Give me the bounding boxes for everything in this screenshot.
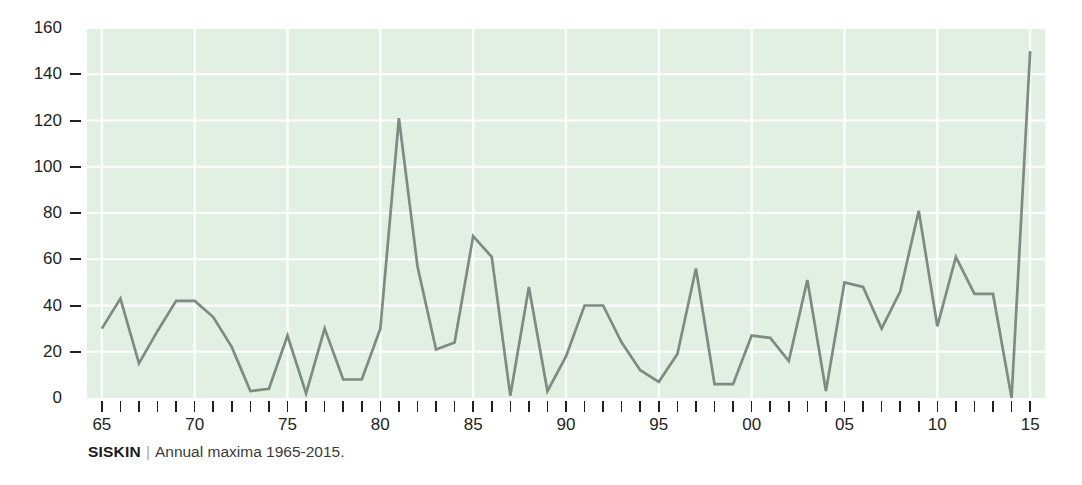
x-tick-mark [602, 401, 604, 412]
x-tick-mark [435, 401, 437, 412]
y-axis: 020406080100120140160 [0, 0, 87, 420]
x-tick-mark [825, 401, 827, 412]
caption-description: Annual maxima 1965-2015. [155, 443, 345, 460]
y-tick: 60 [43, 249, 87, 269]
x-tick-mark [417, 401, 419, 412]
x-tick-mark [807, 401, 809, 412]
chart-caption: SISKIN|Annual maxima 1965-2015. [88, 443, 345, 461]
x-tick-label: 10 [928, 415, 947, 435]
x-tick-mark [677, 401, 679, 412]
x-tick-mark [268, 401, 270, 412]
x-tick-mark [324, 401, 326, 412]
x-tick-mark [472, 401, 474, 412]
y-tick-label: 80 [43, 203, 62, 223]
x-tick-mark [380, 401, 382, 412]
x-tick-mark [361, 401, 363, 412]
y-tick-label: 100 [34, 157, 62, 177]
x-tick-mark [899, 401, 901, 412]
x-tick-mark [194, 401, 196, 412]
x-tick-mark [1029, 401, 1031, 412]
caption-separator: | [141, 443, 155, 460]
x-axis: 6570758085909500051015 [87, 398, 1045, 438]
x-tick-mark [639, 401, 641, 412]
y-tick: 0 [53, 388, 87, 408]
x-tick-mark [695, 401, 697, 412]
x-tick-mark [157, 401, 159, 412]
y-tick-mark [70, 397, 81, 399]
x-tick-mark [714, 401, 716, 412]
x-tick-mark [547, 401, 549, 412]
x-tick-mark [788, 401, 790, 412]
y-tick-mark [70, 73, 81, 75]
x-tick-mark [844, 401, 846, 412]
x-tick-mark [658, 401, 660, 412]
x-tick-mark [120, 401, 122, 412]
y-tick-mark [70, 212, 81, 214]
x-tick-mark [918, 401, 920, 412]
plot-area [87, 28, 1045, 398]
y-tick-label: 120 [34, 111, 62, 131]
x-tick-label: 15 [1021, 415, 1040, 435]
x-tick-label: 05 [835, 415, 854, 435]
x-tick-mark [175, 401, 177, 412]
x-tick-mark [342, 401, 344, 412]
y-tick-mark [70, 27, 81, 29]
chart-svg [87, 28, 1045, 398]
y-tick: 120 [34, 111, 87, 131]
y-tick-mark [70, 120, 81, 122]
x-tick-label: 75 [278, 415, 297, 435]
y-tick-label: 20 [43, 342, 62, 362]
y-tick-label: 160 [34, 18, 62, 38]
y-tick-label: 140 [34, 64, 62, 84]
x-tick-label: 80 [371, 415, 390, 435]
x-tick-mark [862, 401, 864, 412]
x-tick-mark [732, 401, 734, 412]
x-tick-label: 65 [92, 415, 111, 435]
x-tick-mark [881, 401, 883, 412]
y-tick: 140 [34, 64, 87, 84]
x-tick-label: 90 [557, 415, 576, 435]
y-tick: 160 [34, 18, 87, 38]
y-tick: 100 [34, 157, 87, 177]
y-tick: 20 [43, 342, 87, 362]
gridlines [87, 28, 1045, 398]
y-tick-mark [70, 258, 81, 260]
x-tick-label: 70 [185, 415, 204, 435]
x-tick-mark [398, 401, 400, 412]
x-tick-mark [528, 401, 530, 412]
x-tick-mark [250, 401, 252, 412]
x-tick-mark [231, 401, 233, 412]
x-tick-mark [305, 401, 307, 412]
y-tick-mark [70, 351, 81, 353]
x-tick-mark [955, 401, 957, 412]
x-tick-mark [937, 401, 939, 412]
x-tick-mark [974, 401, 976, 412]
chart-figure: 020406080100120140160 657075808590950005… [0, 0, 1082, 485]
y-tick-label: 60 [43, 249, 62, 269]
x-tick-mark [510, 401, 512, 412]
x-tick-mark [212, 401, 214, 412]
x-tick-mark [138, 401, 140, 412]
x-tick-mark [992, 401, 994, 412]
x-tick-mark [565, 401, 567, 412]
x-tick-mark [751, 401, 753, 412]
y-tick-mark [70, 305, 81, 307]
x-tick-mark [584, 401, 586, 412]
x-tick-mark [101, 401, 103, 412]
x-tick-mark [621, 401, 623, 412]
y-tick-label: 0 [53, 388, 62, 408]
x-tick-mark [454, 401, 456, 412]
x-tick-mark [491, 401, 493, 412]
y-tick: 40 [43, 296, 87, 316]
y-tick-label: 40 [43, 296, 62, 316]
y-tick-mark [70, 166, 81, 168]
y-tick: 80 [43, 203, 87, 223]
x-tick-mark [287, 401, 289, 412]
x-tick-label: 00 [742, 415, 761, 435]
x-tick-mark [1011, 401, 1013, 412]
x-tick-label: 95 [649, 415, 668, 435]
caption-species-label: SISKIN [88, 443, 141, 460]
x-tick-label: 85 [464, 415, 483, 435]
x-tick-mark [769, 401, 771, 412]
